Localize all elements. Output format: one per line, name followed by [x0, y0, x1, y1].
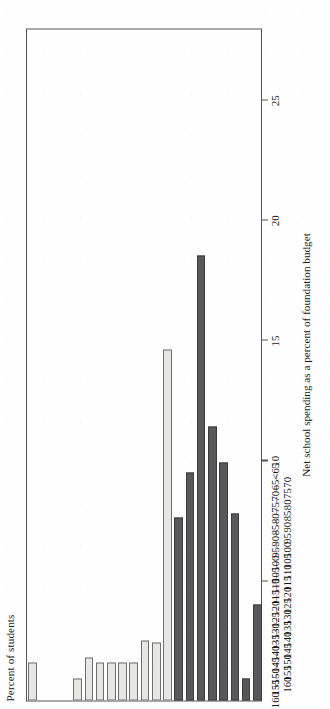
bar	[152, 642, 161, 700]
figure-canvas: Percent of students 510152025 <6565–7070…	[0, 0, 330, 709]
category-label-lower: 160	[282, 674, 294, 695]
bar	[96, 662, 105, 700]
plot-area	[26, 28, 262, 701]
category-label-upper: 160 +	[270, 683, 282, 708]
bar	[197, 255, 206, 700]
bar	[186, 472, 195, 700]
bar	[219, 462, 228, 700]
category-axis-labels: <6565–7070–7575–8080–8585–9090–9595–1001…	[262, 28, 302, 701]
bar	[141, 640, 150, 700]
histogram-figure: Percent of students 510152025 <6565–7070…	[0, 0, 330, 709]
bar	[118, 662, 127, 700]
bar	[85, 657, 94, 700]
bar	[242, 678, 251, 700]
bar	[208, 426, 217, 700]
bar	[129, 662, 138, 700]
bar	[163, 349, 172, 700]
bar	[107, 662, 116, 700]
category-label: 160 +	[270, 683, 282, 708]
bar	[231, 513, 240, 700]
category-axis-title: Net school spending as a percent of foun…	[300, 0, 312, 709]
bar	[28, 662, 37, 700]
bar	[73, 678, 82, 700]
bar	[174, 517, 183, 700]
value-axis-title: Percent of students	[4, 614, 16, 701]
bar	[253, 604, 262, 700]
rotated-figure-wrapper: Percent of students 510152025 <6565–7070…	[0, 0, 330, 709]
